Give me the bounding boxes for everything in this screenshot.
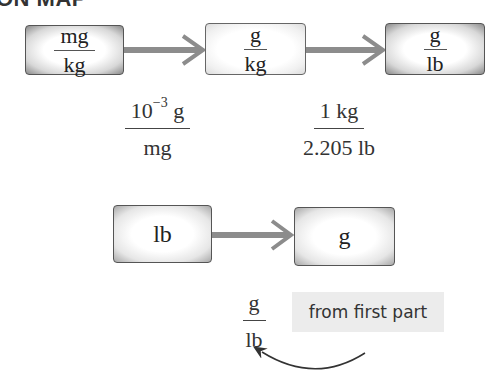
cf-denominator: mg <box>143 129 171 161</box>
box-label: lb <box>153 221 172 248</box>
conversion-factor-g-per-lb: g lb <box>236 290 272 353</box>
arrow-mgkg-to-gkg <box>124 36 203 64</box>
note-from-first-part: from first part <box>292 292 444 332</box>
box-mg-per-kg: mg kg <box>25 25 124 75</box>
box-denominator: kg <box>64 51 86 76</box>
cf-denominator: lb <box>245 321 262 353</box>
box-lb: lb <box>113 205 212 263</box>
cf-numerator: g <box>243 290 266 321</box>
box-denominator: kg <box>245 50 267 75</box>
box-g: g <box>294 207 395 266</box>
box-numerator: mg <box>54 24 94 50</box>
box-denominator: lb <box>426 50 443 75</box>
box-g-per-lb: g lb <box>385 23 485 75</box>
box-label: g <box>339 223 351 250</box>
box-g-per-kg: g kg <box>205 23 306 75</box>
curved-arrow <box>262 352 365 369</box>
box-numerator: g <box>244 23 267 49</box>
cf-numerator: 1 kg <box>314 98 365 129</box>
cf-denominator: 2.205 lb <box>303 129 375 161</box>
arrow-lb-to-g <box>212 221 291 249</box>
conversion-factor-mg-to-g: 10−3 g mg <box>120 98 195 161</box>
box-numerator: g <box>424 23 447 49</box>
arrow-gkg-to-glb <box>306 36 383 64</box>
conversion-factor-kg-to-lb: 1 kg 2.205 lb <box>296 98 382 161</box>
cf-numerator: 10−3 g <box>125 98 190 129</box>
